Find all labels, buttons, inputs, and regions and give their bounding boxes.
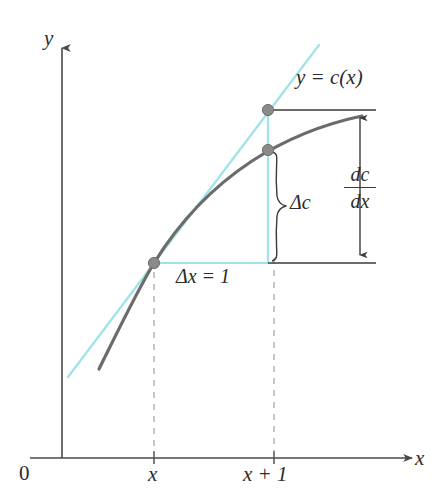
origin-label: 0 [19,463,30,484]
delta-c-brace [272,152,286,261]
y-axis-label: y [44,28,53,49]
x-tick-label-x-plus-1: x + 1 [243,464,288,485]
cost-curve [99,116,362,369]
delta-x-label: Δx = 1 [176,266,230,286]
x-tick-label-x: x [148,464,157,485]
x-axis-label: x [415,448,424,469]
diagram-canvas [0,0,437,493]
derivative-numerator: dc [337,163,383,186]
figure-container: y x 0 x x + 1 y = c(x) Δc Δx = 1 dc dx [0,0,437,493]
point-on-curve-at-x-plus-1 [262,144,273,155]
curve-label: y = c(x) [296,67,363,88]
derivative-label: dc dx [337,163,383,213]
point-on-tangent-at-x-plus-1 [262,104,273,115]
fraction-bar [344,187,376,188]
delta-c-label: Δc [290,192,311,212]
derivative-denominator: dx [337,190,383,213]
point-of-tangency [148,257,159,268]
